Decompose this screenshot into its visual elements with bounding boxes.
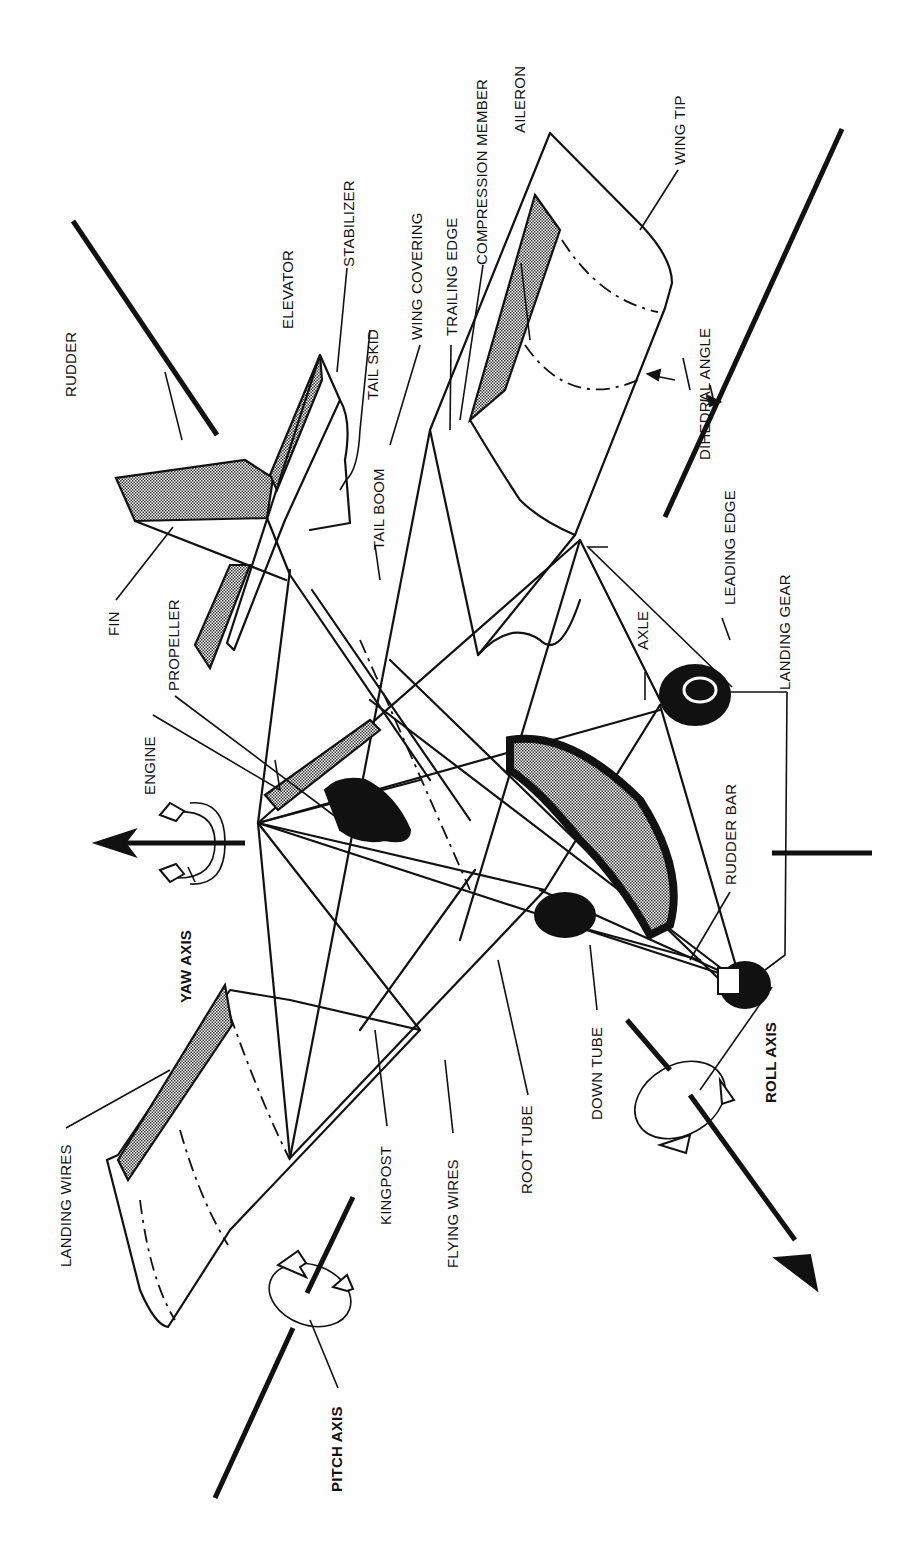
left-wing — [107, 985, 420, 1327]
label-aileron: AILERON — [511, 66, 528, 133]
left-elevator — [195, 565, 250, 668]
label-down-tube: DOWN TUBE — [588, 1027, 605, 1120]
label-axle: AXLE — [634, 611, 651, 650]
engine-shape — [325, 779, 410, 842]
label-leading-edge: LEADING EDGE — [721, 490, 738, 605]
label-dihedral-angle: DIHEDRAL ANGLE — [696, 328, 713, 460]
yaw-axis-arrow — [95, 830, 245, 856]
roll-axis-arrow — [627, 1020, 817, 1290]
pitch-axis-rotation-icon — [260, 1251, 359, 1338]
label-landing-gear: LANDING GEAR — [776, 574, 793, 690]
label-yaw-axis: YAW AXIS — [177, 930, 194, 1003]
rudder-surface — [116, 460, 273, 521]
rear-wheel — [535, 893, 595, 937]
label-engine: ENGINE — [141, 736, 158, 795]
label-tail-skid: TAIL SKID — [364, 329, 381, 400]
label-root-tube: ROOT TUBE — [518, 1105, 535, 1194]
label-compression-member: COMPRESSION MEMBER — [473, 79, 490, 265]
label-flying-wires: FLYING WIRES — [444, 1159, 461, 1268]
label-stabilizer: STABILIZER — [340, 180, 357, 267]
leader-lines — [66, 170, 787, 1388]
label-propeller: PROPELLER — [165, 599, 182, 691]
label-rudder: RUDDER — [62, 332, 79, 397]
label-pitch-axis: PITCH AXIS — [328, 1406, 345, 1492]
label-trailing-edge: TRAILING EDGE — [443, 218, 460, 336]
label-landing-wires: LANDING WIRES — [57, 1144, 74, 1267]
left-aileron — [118, 985, 232, 1180]
label-roll-axis: ROLL AXIS — [762, 1022, 779, 1103]
label-wing-covering: WING COVERING — [408, 212, 425, 340]
label-rudder-bar: RUDDER BAR — [722, 784, 739, 885]
diagram-svg: RUDDER ELEVATOR STABILIZER TAIL SKID WIN… — [0, 0, 919, 1541]
label-elevator: ELEVATOR — [279, 250, 296, 329]
label-tail-boom: TAIL BOOM — [370, 468, 387, 550]
label-fin: FIN — [105, 611, 122, 636]
label-wing-tip: WING TIP — [671, 95, 688, 165]
tail-section — [116, 355, 350, 668]
label-kingpost: KINGPOST — [377, 1146, 394, 1225]
ultralight-diagram: RUDDER ELEVATOR STABILIZER TAIL SKID WIN… — [0, 0, 919, 1541]
